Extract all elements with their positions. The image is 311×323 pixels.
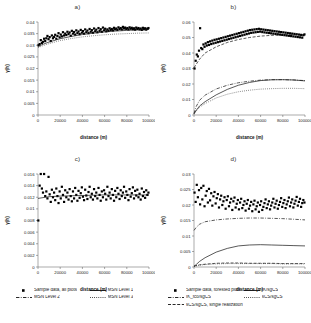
svg-text:0.005: 0.005 (24, 101, 35, 106)
svg-text:0: 0 (32, 265, 35, 270)
svg-text:80000: 80000 (277, 270, 289, 275)
svg-text:0.005: 0.005 (180, 249, 191, 254)
legend-key-dashdot-icon (168, 295, 184, 300)
svg-text:100000: 100000 (142, 118, 155, 123)
svg-text:0.03: 0.03 (182, 172, 191, 177)
svg-text:0.03: 0.03 (182, 66, 191, 71)
svg-text:0.025: 0.025 (24, 54, 35, 59)
panel-c: c) 00.0020.0040.0060.0080.010.0120.0140.… (0, 152, 155, 297)
legend-right-item: IK/sgCS (244, 288, 311, 293)
svg-text:40000: 40000 (77, 270, 89, 275)
svg-text:60000: 60000 (255, 118, 267, 123)
legend-left-item: MSN Level 3 (90, 295, 161, 300)
svg-text:100000: 100000 (298, 270, 311, 275)
svg-text:0.01: 0.01 (182, 97, 191, 102)
svg-text:0.06: 0.06 (182, 20, 191, 25)
svg-text:γ(h): γ(h) (5, 216, 10, 225)
svg-text:0.015: 0.015 (24, 78, 35, 83)
legend-key-dotted-icon (90, 295, 106, 300)
svg-text:0.006: 0.006 (24, 230, 35, 235)
panel-b-plot: 00.010.020.030.040.050.06020000400006000… (156, 0, 311, 145)
legend-key-dashdot-icon (16, 295, 32, 300)
panel-d-plot: 00.0050.010.0150.020.0250.03020000400006… (156, 152, 311, 297)
legend-label: MSN Level 3 (108, 295, 134, 300)
legend-right-item: Sample data, forested plots (168, 288, 241, 293)
svg-text:0: 0 (193, 118, 196, 123)
legend-key-square-icon (16, 288, 32, 293)
svg-text:20000: 20000 (210, 118, 222, 123)
legend-left: Sample data, all plotsMSN Level 1MSN Lev… (16, 288, 160, 300)
legend-left-item: MSN Level 2 (16, 295, 87, 300)
svg-text:γ(h): γ(h) (5, 64, 10, 73)
svg-text:0.02: 0.02 (26, 66, 35, 71)
svg-text:γ(h): γ(h) (161, 64, 166, 73)
svg-text:20000: 20000 (210, 270, 222, 275)
svg-text:0.04: 0.04 (26, 20, 35, 25)
panel-a-plot: 00.0050.010.0150.020.0250.030.0350.04020… (0, 0, 155, 145)
svg-text:0: 0 (37, 118, 40, 123)
legend-right-item: sCS/sgCS (244, 295, 311, 300)
svg-text:40000: 40000 (233, 118, 245, 123)
svg-text:60000: 60000 (99, 270, 111, 275)
svg-text:0.004: 0.004 (24, 241, 35, 246)
svg-text:0.035: 0.035 (24, 31, 35, 36)
svg-text:0.01: 0.01 (26, 206, 35, 211)
svg-text:0.002: 0.002 (24, 253, 35, 258)
panel-c-plot: 00.0020.0040.0060.0080.010.0120.0140.016… (0, 152, 155, 297)
legend-label: sCS/sgCS (262, 295, 283, 300)
svg-text:distance (m): distance (m) (80, 135, 108, 140)
legend-label: Sample data, all plots (34, 288, 77, 293)
legend-key-dashed-icon (168, 302, 184, 307)
svg-text:60000: 60000 (255, 270, 267, 275)
legend-label: Sample data, forested plots (186, 288, 241, 293)
svg-text:0.014: 0.014 (24, 183, 35, 188)
svg-text:0: 0 (32, 113, 35, 118)
svg-text:80000: 80000 (121, 118, 133, 123)
legend-label: MSN Level 2 (34, 295, 60, 300)
svg-text:distance (m): distance (m) (236, 135, 264, 140)
legend-right-item: sCS/sgCS, single realization (168, 302, 311, 307)
figure-variogram-panels: a) 00.0050.010.0150.020.0250.030.0350.04… (0, 0, 311, 323)
legend-key-solid-icon (244, 288, 260, 293)
svg-text:20000: 20000 (54, 270, 66, 275)
svg-text:80000: 80000 (121, 270, 133, 275)
svg-text:40000: 40000 (77, 118, 89, 123)
svg-text:0.05: 0.05 (182, 35, 191, 40)
svg-text:0.01: 0.01 (26, 89, 35, 94)
svg-text:0.04: 0.04 (182, 51, 191, 56)
panel-d: d) 00.0050.010.0150.020.0250.03020000400… (156, 152, 311, 297)
svg-text:0.01: 0.01 (182, 234, 191, 239)
svg-text:40000: 40000 (233, 270, 245, 275)
svg-text:60000: 60000 (99, 118, 111, 123)
legend-label: sCS/sgCS, single realization (186, 303, 243, 308)
svg-text:0: 0 (37, 270, 40, 275)
svg-text:0.025: 0.025 (180, 187, 191, 192)
svg-text:γ(h): γ(h) (161, 216, 166, 225)
svg-text:20000: 20000 (54, 118, 66, 123)
panel-b: b) 00.010.020.030.040.050.06020000400006… (156, 0, 311, 145)
legend-right-item: IK_fco/sgCS (168, 295, 241, 300)
svg-text:0.03: 0.03 (26, 43, 35, 48)
legend-left-item: Sample data, all plots (16, 288, 87, 293)
legend-label: MSN Level 1 (108, 288, 134, 293)
legend-key-solid-icon (90, 288, 106, 293)
legend-label: IK_fco/sgCS (186, 295, 211, 300)
legend-key-dotted-icon (244, 295, 260, 300)
svg-text:100000: 100000 (298, 118, 311, 123)
panel-a: a) 00.0050.010.0150.020.0250.030.0350.04… (0, 0, 155, 145)
legend-label: IK/sgCS (262, 288, 279, 293)
svg-text:0.02: 0.02 (182, 203, 191, 208)
svg-text:0: 0 (193, 270, 196, 275)
svg-text:0.015: 0.015 (180, 218, 191, 223)
legend-left-item: MSN Level 1 (90, 288, 161, 293)
svg-text:0.008: 0.008 (24, 218, 35, 223)
svg-text:0.016: 0.016 (24, 172, 35, 177)
svg-text:0: 0 (188, 265, 191, 270)
svg-text:0.02: 0.02 (182, 82, 191, 87)
legend-key-square-icon (168, 288, 184, 293)
svg-text:0: 0 (188, 113, 191, 118)
svg-text:80000: 80000 (277, 118, 289, 123)
svg-text:100000: 100000 (142, 270, 155, 275)
legend-right: Sample data, forested plotsIK/sgCSIK_fco… (168, 288, 311, 307)
svg-text:0.012: 0.012 (24, 195, 35, 200)
